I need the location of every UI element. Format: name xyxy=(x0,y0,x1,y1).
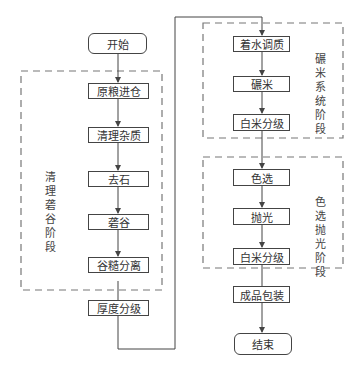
step-packaging: 成品包装 xyxy=(233,286,290,303)
step-white-rice-grading-2: 白米分级 xyxy=(233,248,290,265)
step-raw-grain-intake: 原粮进仓 xyxy=(88,83,149,99)
step-white-rice-grading-1: 白米分级 xyxy=(233,114,290,131)
step-color-sorting: 色选 xyxy=(233,169,290,186)
group-label-milling: 碾米系统阶段 xyxy=(313,53,327,137)
start-node: 开始 xyxy=(88,33,147,54)
step-water-conditioning: 着水调质 xyxy=(233,36,290,52)
end-node: 结束 xyxy=(234,333,292,355)
step-husking: 砻谷 xyxy=(88,214,149,230)
flowchart: 开始 原粮进仓 清理杂质 去石 砻谷 谷糙分离 厚度分级 清理砻谷阶段 着水调质… xyxy=(0,0,359,374)
group-label-sorting: 色选抛光阶段 xyxy=(313,196,327,280)
step-polishing: 抛光 xyxy=(233,208,290,225)
step-destoning: 去石 xyxy=(88,171,149,187)
step-impurity-cleaning: 清理杂质 xyxy=(88,127,149,143)
step-milling: 碾米 xyxy=(233,76,290,92)
group-label-cleaning: 清理砻谷阶段 xyxy=(43,171,57,255)
step-thickness-grading: 厚度分级 xyxy=(88,300,149,316)
step-paddy-separation: 谷糙分离 xyxy=(88,257,149,273)
